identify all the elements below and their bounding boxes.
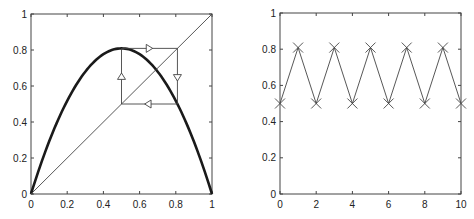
y-tick-label: 0.2 [13, 153, 27, 164]
x-tick-label: 8 [422, 199, 428, 210]
figure: 00.20.40.60.8100.20.40.60.81 024681000.2… [0, 0, 474, 219]
x-tick-label: 0.4 [96, 199, 110, 210]
y-tick-label: 0.4 [13, 117, 27, 128]
x-tick-label: 0.2 [60, 199, 74, 210]
y-tick-label: 0 [270, 189, 276, 200]
y-tick-label: 1 [270, 8, 276, 19]
x-tick-label: 0 [277, 199, 283, 210]
x-tick-label: 6 [386, 199, 392, 210]
y-tick-label: 1 [21, 9, 27, 20]
x-tick-label: 10 [455, 199, 467, 210]
y-tick-label: 0 [21, 189, 27, 200]
y-tick-label: 0.2 [262, 152, 276, 163]
y-tick-label: 0.4 [262, 116, 276, 127]
x-tick-label: 2 [313, 199, 319, 210]
y-tick-label: 0.6 [13, 81, 27, 92]
x-tick-label: 4 [350, 199, 356, 210]
y-tick-label: 0.6 [262, 80, 276, 91]
x-tick-label: 0 [28, 199, 34, 210]
y-tick-label: 0.8 [13, 45, 27, 56]
figure-background [0, 0, 474, 219]
x-tick-label: 1 [209, 199, 215, 210]
x-tick-label: 0.8 [169, 199, 183, 210]
y-tick-label: 0.8 [262, 44, 276, 55]
x-tick-label: 0.6 [133, 199, 147, 210]
